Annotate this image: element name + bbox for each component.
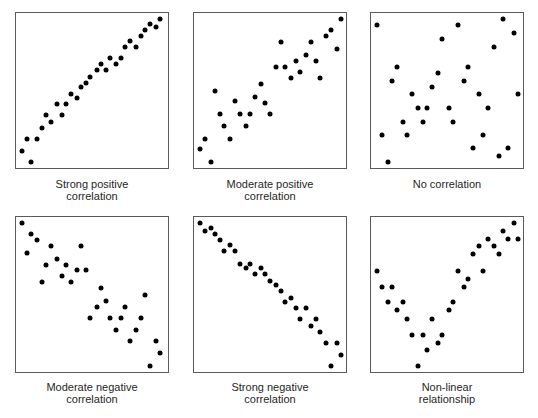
data-point [385, 300, 390, 305]
data-point [420, 119, 425, 124]
data-point [88, 315, 93, 320]
data-point [103, 68, 108, 73]
data-point [405, 317, 410, 322]
data-point [118, 315, 123, 320]
caption-line-2: correlation [15, 191, 169, 203]
data-point [429, 317, 434, 322]
data-point [74, 96, 79, 101]
data-point [64, 263, 69, 268]
data-point [334, 46, 339, 51]
data-point [481, 269, 486, 274]
data-point [416, 105, 421, 110]
data-point [29, 232, 34, 237]
data-point [385, 159, 390, 164]
data-point [59, 273, 64, 278]
data-point [304, 306, 309, 311]
data-point [425, 105, 430, 110]
data-point [274, 65, 279, 70]
scatter-plot-strong-negative [193, 216, 347, 373]
data-point [228, 242, 233, 247]
data-point [108, 55, 113, 60]
data-point [461, 79, 466, 84]
data-point [455, 269, 460, 274]
data-point [400, 119, 405, 124]
data-point [466, 277, 471, 282]
data-point [134, 45, 139, 50]
data-point [283, 300, 288, 305]
data-point [501, 228, 506, 233]
data-point [153, 339, 158, 344]
caption-line-1: Moderate negative [15, 382, 169, 394]
data-point [39, 280, 44, 285]
data-point [68, 91, 73, 96]
data-point [20, 148, 25, 153]
data-point [59, 113, 64, 118]
data-point [375, 23, 380, 28]
data-point [202, 136, 207, 141]
data-point [55, 256, 60, 261]
data-point [263, 100, 268, 105]
data-point [202, 228, 207, 233]
data-point [237, 111, 242, 116]
data-point [147, 21, 152, 26]
data-point [298, 317, 303, 322]
data-point [486, 105, 491, 110]
data-point [233, 99, 238, 104]
data-point [289, 76, 294, 81]
data-point [99, 62, 104, 67]
data-point [158, 351, 163, 356]
data-point [451, 119, 456, 124]
caption-non-linear: Non-linear relationship [370, 382, 524, 405]
data-point [258, 82, 263, 87]
data-point [88, 74, 93, 79]
data-point [278, 289, 283, 294]
data-point [153, 24, 158, 29]
caption-line-1: Strong negative [193, 382, 347, 394]
data-point [24, 250, 29, 255]
data-point [252, 272, 257, 277]
data-point [451, 300, 456, 305]
data-point [20, 221, 25, 226]
data-point [138, 34, 143, 39]
data-point [313, 317, 318, 322]
data-point [410, 91, 415, 96]
data-point [501, 17, 506, 22]
caption-moderate-positive: Moderate positive correlation [193, 179, 347, 202]
data-point [248, 261, 253, 266]
data-point [128, 38, 133, 43]
data-point [440, 332, 445, 337]
data-point [455, 23, 460, 28]
data-point [123, 304, 128, 309]
data-point [516, 91, 521, 96]
data-point [505, 236, 510, 241]
scatter-plot-moderate-positive [193, 12, 347, 169]
data-point [123, 45, 128, 50]
data-point [309, 40, 314, 45]
data-point [243, 124, 248, 129]
data-point [492, 244, 497, 249]
data-point [309, 323, 314, 328]
data-point [375, 269, 380, 274]
caption-moderate-negative: Moderate negative correlation [15, 382, 169, 405]
data-point [429, 85, 434, 90]
data-point [79, 244, 84, 249]
data-point [416, 363, 421, 368]
data-point [208, 225, 213, 230]
data-point [44, 113, 49, 118]
data-point [108, 315, 113, 320]
data-point [486, 236, 491, 241]
data-point [44, 263, 49, 268]
data-point [134, 328, 139, 333]
caption-line-2: correlation [15, 394, 169, 406]
data-point [114, 62, 119, 67]
data-point [222, 124, 227, 129]
data-point [420, 332, 425, 337]
data-point [334, 340, 339, 345]
data-point [103, 298, 108, 303]
data-point [511, 31, 516, 36]
caption-strong-negative: Strong negative correlation [193, 382, 347, 405]
data-point [83, 267, 88, 272]
data-point [29, 159, 34, 164]
data-point [324, 340, 329, 345]
caption-strong-positive: Strong positive correlation [15, 179, 169, 202]
